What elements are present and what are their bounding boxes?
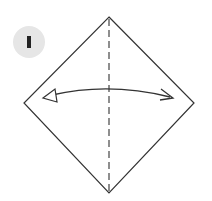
origami-diagram — [0, 0, 212, 201]
